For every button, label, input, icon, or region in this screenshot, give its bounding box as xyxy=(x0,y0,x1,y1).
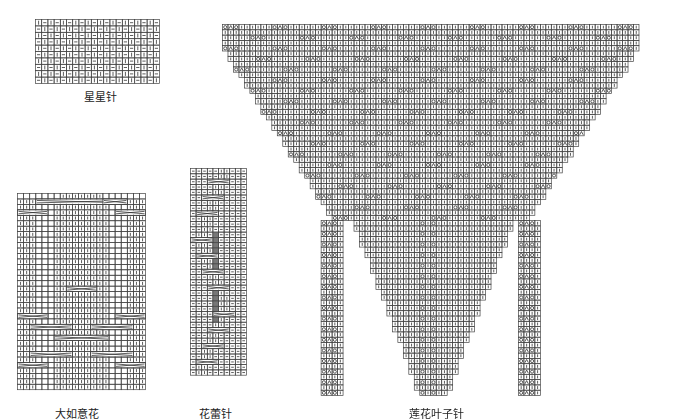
chart-title-lianhua: 莲花叶子针 xyxy=(409,405,464,419)
chart-daruyi xyxy=(17,193,148,392)
chart-grid-daruyi xyxy=(17,193,148,392)
chart-lianhua xyxy=(222,24,641,397)
chart-title-xingxing: 星星针 xyxy=(84,88,117,104)
chart-title-daruyi: 大如意花 xyxy=(55,405,99,419)
chart-xingxing xyxy=(35,19,161,85)
chart-grid-xingxing xyxy=(35,19,161,85)
chart-title-hualei: 花蕾针 xyxy=(199,405,232,419)
chart-grid-lianhua xyxy=(222,24,641,397)
